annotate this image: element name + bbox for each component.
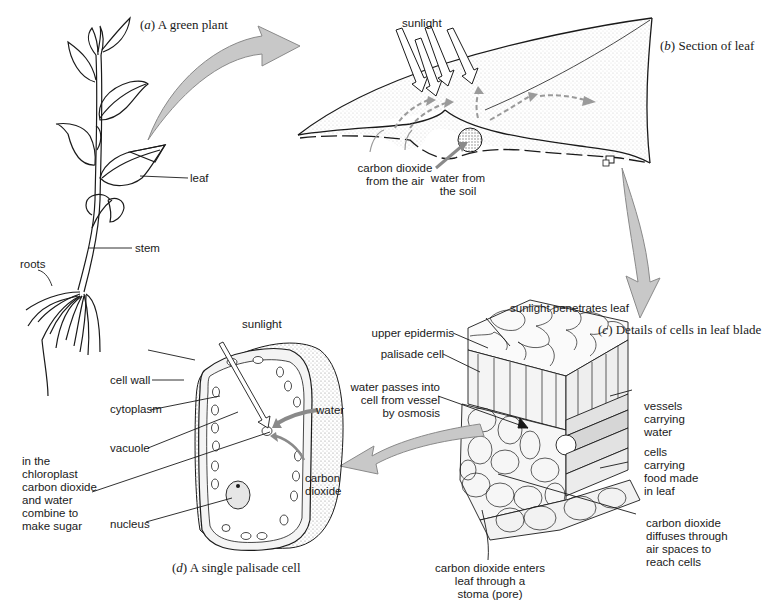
label-co2-diffuses: carbon dioxide diffuses through air spac… bbox=[646, 517, 728, 569]
caption-b: (b) Section of leaf bbox=[660, 38, 754, 54]
leaf-section-drawing bbox=[298, 18, 652, 168]
label-vacuole: vacuole bbox=[110, 442, 150, 455]
label-sunlight-d: sunlight bbox=[242, 318, 282, 331]
palisade-cell-drawing bbox=[195, 342, 343, 550]
caption-d: (d) A single palisade cell bbox=[172, 560, 301, 576]
diagram-artwork bbox=[0, 0, 762, 606]
label-upper-epidermis: upper epidermis bbox=[350, 327, 454, 340]
caption-c: (c) Details of cells in leaf blade bbox=[598, 322, 761, 338]
plant-drawing bbox=[26, 18, 165, 396]
label-chloroplast: in the chloroplast carbon dioxide and wa… bbox=[22, 455, 97, 533]
label-water-osmosis: water passes into cell from vessel by os… bbox=[330, 381, 440, 420]
label-roots: roots bbox=[20, 258, 46, 271]
caption-a: (a) A green plant bbox=[140, 17, 228, 33]
label-nucleus: nucleus bbox=[110, 518, 150, 531]
label-water-soil: water from the soil bbox=[418, 172, 498, 198]
label-co2-d: carbon dioxide bbox=[305, 472, 341, 498]
label-cells-food: cells carrying food made in leaf bbox=[644, 446, 698, 498]
arrow-plant-to-leaf-icon bbox=[148, 26, 300, 140]
label-vessels-water: vessels carrying water bbox=[644, 400, 685, 439]
label-cytoplasm: cytoplasm bbox=[110, 403, 162, 416]
arrow-leaf-to-cells-icon bbox=[622, 168, 660, 318]
label-co2-stoma: carbon dioxide enters leaf through a sto… bbox=[420, 562, 560, 601]
label-water-d: water bbox=[316, 404, 344, 417]
label-palisade-cell: palisade cell bbox=[350, 348, 444, 361]
photosynthesis-diagram: (a) A green plant leaf stem roots sunlig… bbox=[0, 0, 762, 606]
label-cell-wall: cell wall bbox=[110, 374, 150, 387]
label-leaf: leaf bbox=[190, 172, 209, 185]
label-sunlight-penetrates: sunlight penetrates leaf bbox=[510, 302, 629, 315]
label-stem: stem bbox=[135, 242, 160, 255]
label-sunlight-b: sunlight bbox=[402, 17, 442, 30]
